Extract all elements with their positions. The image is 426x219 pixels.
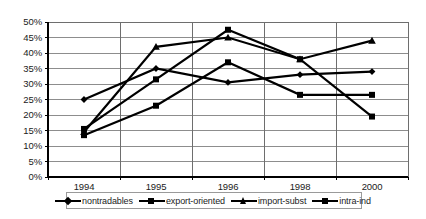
legend-item-export-oriented: export-oriented bbox=[139, 195, 227, 206]
legend-item-intra-ind: intra-ind bbox=[312, 195, 373, 206]
x-tick-label: 1995 bbox=[120, 182, 192, 192]
y-tick-label: 30% bbox=[0, 79, 42, 89]
y-tick-label: 35% bbox=[0, 64, 42, 74]
x-tick-label: 1996 bbox=[192, 182, 264, 192]
y-tick-label: 50% bbox=[0, 17, 42, 27]
legend-marker bbox=[322, 198, 328, 204]
data-point-marker bbox=[297, 92, 303, 98]
legend-marker bbox=[148, 198, 154, 204]
diamond-marker-icon bbox=[55, 195, 81, 206]
plot-svg bbox=[0, 0, 426, 190]
x-tick-label: 2000 bbox=[336, 182, 408, 192]
data-point-marker bbox=[369, 68, 376, 75]
data-point-marker bbox=[153, 65, 160, 72]
y-tick-label: 5% bbox=[0, 157, 42, 167]
data-point-marker bbox=[153, 103, 159, 109]
data-point-marker bbox=[81, 96, 88, 103]
line-chart: 0%5%10%15%20%25%30%35%40%45%50% 19941995… bbox=[0, 0, 426, 219]
x-tick-label: 1998 bbox=[264, 182, 336, 192]
x-tick-label: 1994 bbox=[48, 182, 120, 192]
data-point-marker bbox=[225, 59, 231, 65]
legend-marker bbox=[63, 196, 71, 204]
data-point-marker bbox=[297, 56, 303, 62]
legend-label: import-subst bbox=[258, 196, 308, 206]
square-marker-icon bbox=[312, 195, 338, 206]
legend-label: intra-ind bbox=[339, 196, 373, 206]
data-point-marker bbox=[153, 76, 159, 82]
legend-label: export-oriented bbox=[166, 196, 227, 206]
plot-area: 0%5%10%15%20%25%30%35%40%45%50% 19941995… bbox=[0, 0, 426, 190]
y-tick-label: 20% bbox=[0, 110, 42, 120]
y-tick-label: 25% bbox=[0, 95, 42, 105]
y-tick-label: 45% bbox=[0, 33, 42, 43]
y-tick-label: 10% bbox=[0, 141, 42, 151]
legend-marker bbox=[240, 197, 246, 204]
square-marker-icon bbox=[139, 195, 165, 206]
chart-legend: nontradablesexport-orientedimport-substi… bbox=[66, 192, 362, 209]
data-point-marker bbox=[225, 27, 231, 33]
data-point-marker bbox=[225, 79, 232, 86]
legend-item-import-subst: import-subst bbox=[231, 195, 308, 206]
legend-label: nontradables bbox=[82, 196, 135, 206]
triangle-marker-icon bbox=[231, 195, 257, 206]
series-export-oriented bbox=[81, 59, 375, 138]
y-tick-label: 15% bbox=[0, 126, 42, 136]
y-tick-label: 0% bbox=[0, 172, 42, 182]
data-point-marker bbox=[297, 71, 304, 78]
data-point-marker bbox=[369, 114, 375, 120]
legend-item-nontradables: nontradables bbox=[55, 195, 135, 206]
data-point-marker bbox=[81, 126, 87, 132]
y-tick-label: 40% bbox=[0, 48, 42, 58]
data-point-marker bbox=[369, 92, 375, 98]
